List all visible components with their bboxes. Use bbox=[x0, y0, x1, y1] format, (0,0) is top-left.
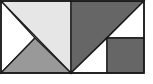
tangram-pieces bbox=[1, 1, 144, 73]
dark-square-bottom-right bbox=[107, 38, 144, 73]
tangram-diagram bbox=[0, 0, 153, 84]
